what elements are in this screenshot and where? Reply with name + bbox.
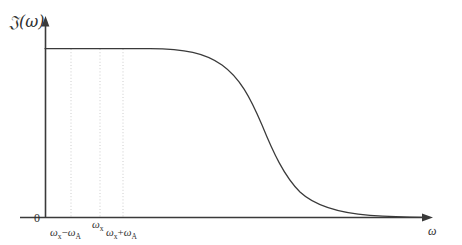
tick-1-base-sub: x xyxy=(100,224,104,233)
y-axis xyxy=(42,16,50,218)
tick-0-second-sub: A xyxy=(76,232,81,241)
spectral-density-curve xyxy=(45,49,424,218)
dropped-line-group xyxy=(71,49,123,217)
y-axis-label: 𝔍(ω) xyxy=(9,14,45,30)
x-axis xyxy=(20,213,433,221)
x-axis-label: ω xyxy=(428,225,436,237)
tick-0-second: ω xyxy=(68,226,76,238)
tick-label-wx-plus-wA: ωx+ωA xyxy=(106,227,137,238)
origin-label: 0 xyxy=(34,212,40,224)
tick-label-wx: ωx xyxy=(92,219,104,230)
tick-1-base: ω xyxy=(92,218,100,230)
tick-0-base: ω xyxy=(50,226,58,238)
tick-2-base: ω xyxy=(106,226,114,238)
plot-canvas xyxy=(0,0,462,245)
tick-2-second-sub: A xyxy=(132,232,137,241)
tick-2-second: ω xyxy=(124,226,132,238)
tick-label-wx-minus-wA: ωx−ωA xyxy=(50,227,81,238)
spectral-density-figure: 𝔍(ω) ω 0 ωx−ωA ωx ωx+ωA xyxy=(0,0,462,245)
y-axis-label-symbol: 𝔍(ω) xyxy=(9,12,45,31)
